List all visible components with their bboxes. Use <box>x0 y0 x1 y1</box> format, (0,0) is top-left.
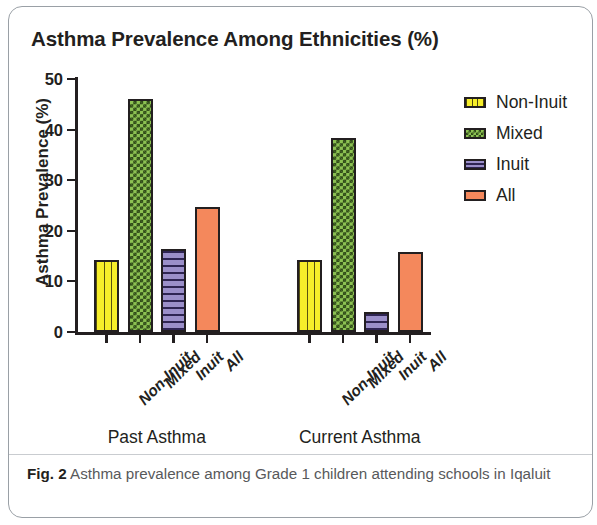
x-axis-tick <box>342 334 344 343</box>
bar <box>161 249 186 332</box>
y-axis-tick <box>67 230 76 232</box>
legend-item[interactable]: Inuit <box>464 149 593 180</box>
y-axis-tick <box>67 78 76 80</box>
y-axis-tick-label: 20 <box>19 221 63 240</box>
bar <box>128 99 153 332</box>
y-axis-line <box>75 77 78 334</box>
legend-label: Inuit <box>496 154 529 175</box>
group-label: Current Asthma <box>270 427 450 448</box>
y-axis-tick-label: 30 <box>19 171 63 190</box>
y-axis-tick-label: 10 <box>19 272 63 291</box>
caption-divider <box>9 454 593 455</box>
y-axis-tick-label: 40 <box>19 120 63 139</box>
x-axis-line <box>75 332 431 335</box>
caption-text: Asthma prevalence among Grade 1 children… <box>70 465 550 482</box>
figure-panel: Asthma Prevalence Among Ethnicities (%) … <box>8 6 593 518</box>
y-axis-tick <box>67 179 76 181</box>
bar <box>364 312 389 332</box>
caption-label: Fig. 2 <box>27 465 67 482</box>
x-axis-tick <box>139 334 141 343</box>
bar <box>331 138 356 332</box>
bar <box>398 252 423 332</box>
legend-swatch-icon <box>464 190 486 201</box>
legend-swatch-icon <box>464 159 486 170</box>
y-axis-tick <box>67 129 76 131</box>
group-label: Past Asthma <box>67 427 247 448</box>
bar <box>195 207 220 332</box>
bar <box>94 260 119 332</box>
figure-caption: Fig. 2 Asthma prevalence among Grade 1 c… <box>27 463 579 484</box>
x-axis-tick <box>105 334 107 343</box>
legend-item[interactable]: All <box>464 180 593 211</box>
x-axis-category-label: All <box>424 348 451 375</box>
y-axis-tick-label: 0 <box>19 323 63 342</box>
x-axis-tick <box>206 334 208 343</box>
x-axis-category-label: All <box>221 348 248 375</box>
y-axis-tick <box>67 331 76 333</box>
legend-item[interactable]: Non-Inuit <box>464 87 593 118</box>
legend-label: Non-Inuit <box>496 92 567 113</box>
x-axis-tick <box>172 334 174 343</box>
legend-swatch-icon <box>464 97 486 108</box>
chart-legend: Non-InuitMixedInuitAll <box>464 87 593 211</box>
x-axis-tick <box>375 334 377 343</box>
x-axis-tick <box>409 334 411 343</box>
x-axis-tick <box>308 334 310 343</box>
bar <box>297 260 322 332</box>
chart-plot-area: Asthma Prevalence (%) 01020304050 Non-In… <box>9 7 593 457</box>
y-axis-tick <box>67 280 76 282</box>
legend-label: Mixed <box>496 123 543 144</box>
legend-swatch-icon <box>464 128 486 139</box>
legend-item[interactable]: Mixed <box>464 118 593 149</box>
legend-label: All <box>496 185 515 206</box>
y-axis-tick-label: 50 <box>19 70 63 89</box>
